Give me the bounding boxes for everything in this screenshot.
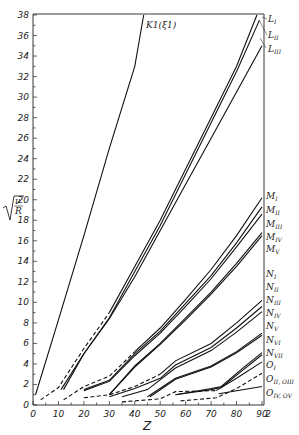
label-m-v: MV bbox=[265, 244, 280, 255]
label-n-iii: NIII bbox=[265, 295, 282, 306]
series-line bbox=[219, 387, 262, 394]
x-tick-label: 10 bbox=[53, 409, 65, 419]
leader-line bbox=[259, 20, 267, 35]
label-n-i: NI bbox=[265, 269, 277, 280]
y-tick-label: 26 bbox=[18, 133, 30, 143]
y-tick-label: 36 bbox=[18, 31, 30, 41]
series-line bbox=[84, 207, 262, 390]
leader-line bbox=[262, 17, 267, 19]
y-tick-label: 32 bbox=[18, 72, 30, 82]
label-n-v: NV bbox=[265, 321, 279, 332]
series-line-dashed bbox=[64, 352, 135, 400]
series-line bbox=[135, 198, 262, 352]
y-tick-label: 22 bbox=[18, 174, 30, 184]
label-n-vi: NVI bbox=[265, 335, 281, 346]
y-tick-label: 2 bbox=[23, 379, 29, 389]
y-tick-label: 4 bbox=[23, 359, 29, 369]
y-tick-label: 0 bbox=[23, 400, 29, 410]
series-lines bbox=[36, 15, 262, 402]
svg-text:R: R bbox=[14, 206, 22, 216]
x-tick-label: 70 bbox=[205, 409, 217, 419]
label-k1: K1(ξ1) bbox=[145, 20, 177, 30]
leader-line bbox=[260, 38, 266, 48]
y-tick-label: 34 bbox=[18, 51, 30, 61]
label-n-vii: NVII bbox=[265, 348, 284, 359]
series-line bbox=[216, 362, 262, 391]
series-line bbox=[61, 20, 259, 389]
x-tick-label: 0 bbox=[30, 409, 36, 419]
y-tick-label: 28 bbox=[18, 113, 30, 123]
label-l-i: LI bbox=[267, 14, 277, 25]
label-l-iii: LIII bbox=[267, 44, 282, 55]
x-tick-label: 80 bbox=[231, 409, 243, 419]
label-n-ii: NII bbox=[265, 282, 279, 293]
y-tick-label: 14 bbox=[18, 256, 30, 266]
x-tick-label: 20 bbox=[78, 409, 90, 419]
label-o-iv-v: OIV, OV bbox=[266, 388, 293, 399]
x-tick-label: 60 bbox=[180, 409, 192, 419]
y-tick-label: 12 bbox=[18, 277, 30, 287]
label-m-ii: MII bbox=[265, 205, 281, 216]
y-tick-label: 10 bbox=[18, 297, 30, 307]
y-tick-label: 24 bbox=[18, 154, 30, 164]
y-tick-label: 18 bbox=[18, 215, 30, 225]
label-o-i: OI bbox=[266, 360, 276, 371]
y-tick-label: 6 bbox=[23, 338, 29, 348]
label-n-iv: NIV bbox=[265, 308, 281, 319]
label-o-ii-iii: OII, OIII bbox=[266, 374, 295, 385]
y-tick-label: 16 bbox=[18, 236, 30, 246]
svg-text:ν: ν bbox=[15, 196, 21, 206]
series-line bbox=[64, 46, 262, 390]
x-tick-label: 30 bbox=[104, 409, 116, 419]
label-m-iv: MIV bbox=[265, 232, 283, 243]
series-line bbox=[84, 214, 262, 391]
x-ticks: 01020304050607080902 bbox=[30, 401, 271, 419]
label-l-ii: LII bbox=[267, 30, 279, 41]
x-extra-tick-label: 2 bbox=[265, 409, 271, 419]
x-tick-label: 40 bbox=[129, 409, 141, 419]
y-tick-label: 8 bbox=[23, 318, 29, 328]
x-tick-label: 50 bbox=[154, 409, 166, 419]
y-tick-label: 30 bbox=[18, 92, 30, 102]
series-line bbox=[36, 15, 144, 395]
label-m-i: MI bbox=[265, 191, 278, 202]
moseley-chart: 02468101214161820222426283032343638 0102… bbox=[0, 0, 299, 435]
series-line-dashed bbox=[41, 313, 110, 400]
y-tick-label: 38 bbox=[18, 10, 30, 20]
x-axis-title: Z bbox=[142, 419, 152, 433]
axes bbox=[33, 14, 264, 405]
label-m-iii: MIII bbox=[265, 219, 283, 230]
